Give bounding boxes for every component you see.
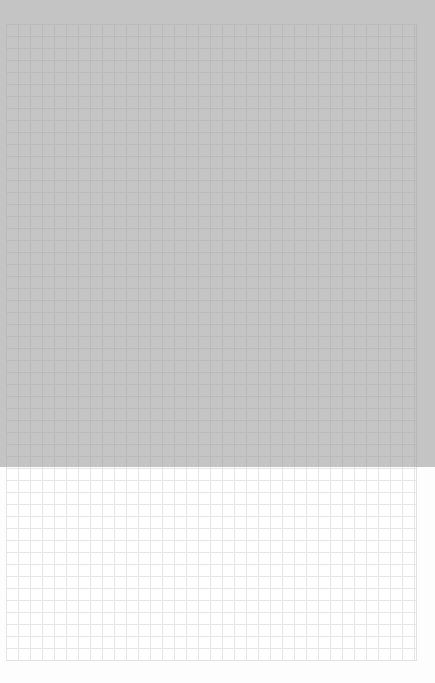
paper-background [0, 0, 435, 683]
gray-shaded-region [0, 0, 435, 467]
